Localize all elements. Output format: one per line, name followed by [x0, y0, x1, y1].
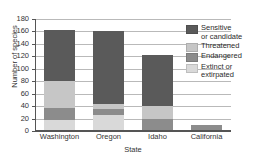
x-axis-line [35, 130, 231, 131]
bar-segment-washington-endangered[interactable] [44, 108, 75, 120]
y-tick-label-0: 0 [3, 127, 29, 135]
bar-segment-idaho-sensitive-or-candidate[interactable] [142, 55, 173, 105]
y-tick-label-120: 120 [3, 52, 29, 60]
species-by-state-chart: Number of species 0204060801001201401601… [0, 0, 265, 164]
bar-washington[interactable] [44, 30, 75, 131]
bar-idaho[interactable] [142, 55, 173, 131]
y-tick-label-160: 160 [3, 27, 29, 35]
legend-item-threatened[interactable]: Threatened [186, 42, 262, 52]
bar-oregon[interactable] [93, 31, 124, 131]
chart-legend: Sensitiveor candidateThreatenedEndangere… [186, 24, 262, 80]
x-tick-label-california: California [177, 133, 237, 141]
legend-label: Extinct orextirpated [201, 63, 234, 80]
legend-swatch-icon [186, 25, 198, 34]
legend-item-endangered[interactable]: Endangered [186, 52, 262, 62]
y-tick-mark-0 [32, 131, 35, 132]
legend-label: Sensitiveor candidate [201, 24, 242, 41]
bar-segment-oregon-extinct-or-extirpated[interactable] [93, 115, 124, 131]
y-axis-line [35, 19, 36, 131]
legend-label: Threatened [201, 42, 239, 51]
legend-swatch-icon [186, 53, 198, 62]
bar-segment-oregon-sensitive-or-candidate[interactable] [93, 31, 124, 103]
x-axis-title: State [35, 145, 231, 154]
legend-label-line2: extirpated [201, 71, 234, 80]
y-tick-label-100: 100 [3, 65, 29, 73]
y-tick-label-80: 80 [3, 77, 29, 85]
bar-segment-idaho-threatened[interactable] [142, 106, 173, 120]
legend-item-sensitive[interactable]: Sensitiveor candidate [186, 24, 262, 41]
bar-segment-washington-threatened[interactable] [44, 81, 75, 108]
y-tick-label-40: 40 [3, 102, 29, 110]
legend-label: Endangered [201, 52, 242, 61]
y-tick-label-60: 60 [3, 90, 29, 98]
y-tick-label-140: 140 [3, 40, 29, 48]
y-tick-label-180: 180 [3, 15, 29, 23]
legend-swatch-icon [186, 64, 198, 73]
legend-label-line2: or candidate [201, 33, 242, 42]
y-tick-label-20: 20 [3, 115, 29, 123]
legend-item-extinct-or[interactable]: Extinct orextirpated [186, 63, 262, 80]
bar-segment-washington-sensitive-or-candidate[interactable] [44, 30, 75, 82]
legend-swatch-icon [186, 43, 198, 52]
